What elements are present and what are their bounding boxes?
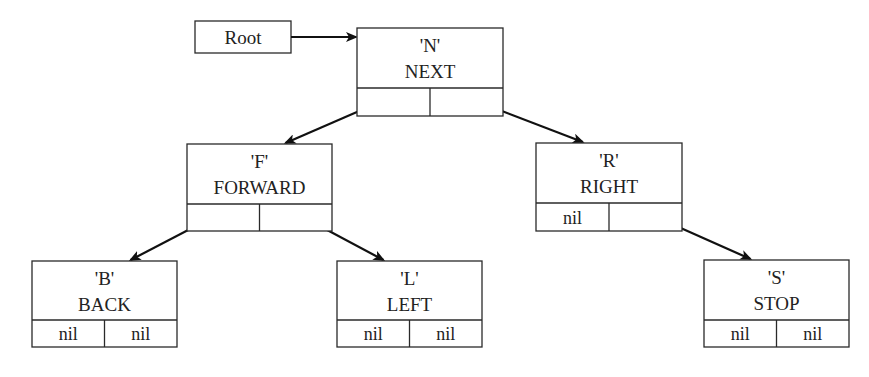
right-pointer: nil: [803, 324, 822, 344]
nodes: 'N'NEXT'F'FORWARD'R'RIGHTnil'B'BACKnilni…: [32, 28, 849, 347]
node-value: LEFT: [387, 294, 433, 315]
tree-node-n: 'N'NEXT: [357, 28, 503, 116]
root-label: Root: [225, 27, 263, 48]
tree-node-r: 'R'RIGHTnil: [536, 143, 682, 231]
node-key: 'S': [768, 267, 785, 288]
left-pointer: nil: [59, 324, 78, 344]
tree-node-b: 'B'BACKnilnil: [32, 261, 177, 347]
tree-node-f: 'F'FORWARD: [187, 144, 332, 231]
right-pointer: nil: [131, 324, 150, 344]
root-pointer: Root: [195, 21, 291, 53]
node-value: NEXT: [405, 61, 456, 82]
left-pointer: nil: [563, 208, 582, 228]
tree-node-l: 'L'LEFTnilnil: [337, 261, 482, 347]
tree-diagram: Root 'N'NEXT'F'FORWARD'R'RIGHTnil'B'BACK…: [0, 0, 869, 377]
node-value: RIGHT: [580, 176, 638, 197]
node-key: 'N': [420, 35, 441, 56]
node-value: FORWARD: [214, 177, 306, 198]
node-value: BACK: [78, 294, 131, 315]
node-key: 'B': [95, 268, 115, 289]
tree-diagram-svg: Root 'N'NEXT'F'FORWARD'R'RIGHTnil'B'BACK…: [0, 0, 869, 377]
node-key: 'R': [599, 150, 619, 171]
node-value: STOP: [753, 293, 799, 314]
node-key: 'F': [251, 151, 268, 172]
left-pointer: nil: [364, 324, 383, 344]
node-key: 'L': [400, 268, 418, 289]
left-pointer: nil: [731, 324, 750, 344]
tree-node-s: 'S'STOPnilnil: [704, 260, 849, 347]
right-pointer: nil: [436, 324, 455, 344]
